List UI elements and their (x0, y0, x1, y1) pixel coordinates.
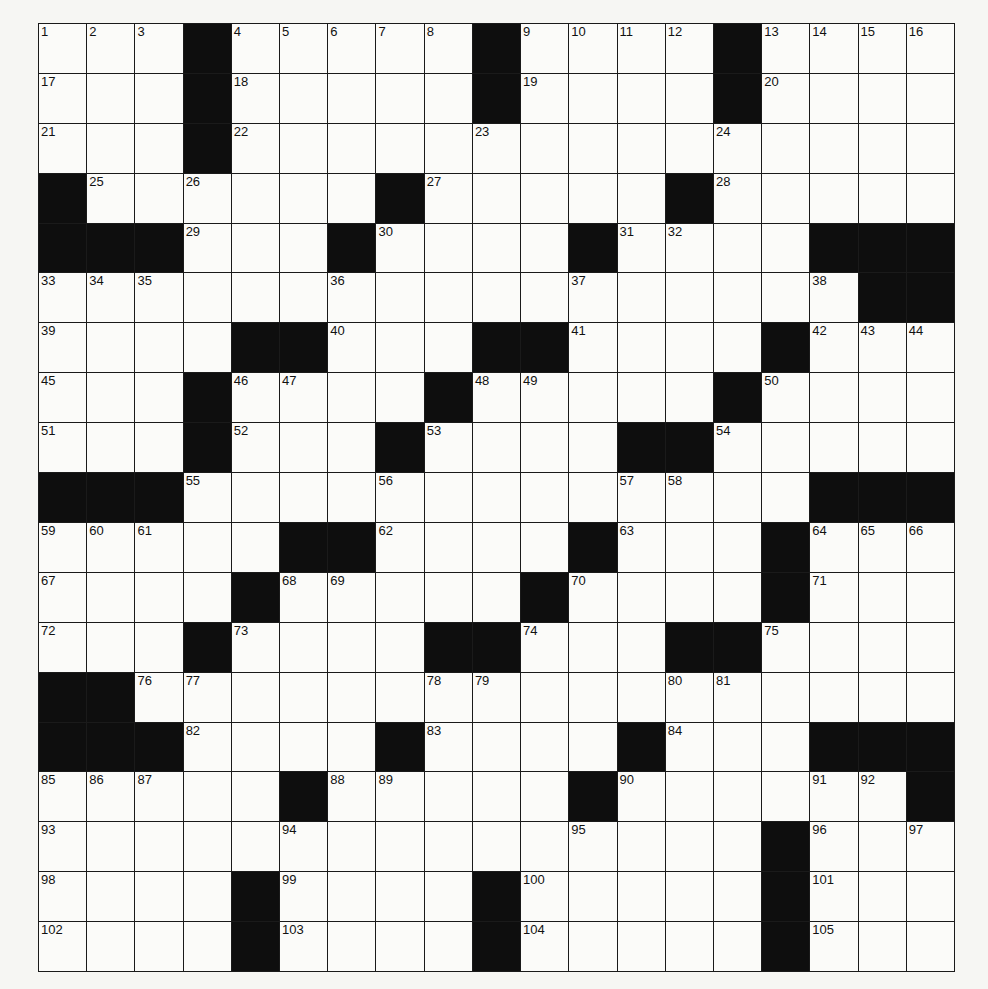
letter-cell[interactable] (135, 174, 182, 223)
letter-cell[interactable] (521, 224, 568, 273)
letter-cell[interactable] (521, 423, 568, 472)
letter-cell[interactable] (376, 124, 423, 173)
letter-cell[interactable] (569, 174, 616, 223)
letter-cell[interactable]: 77 (184, 673, 231, 722)
letter-cell[interactable]: 96 (810, 822, 857, 871)
letter-cell[interactable]: 94 (280, 822, 327, 871)
letter-cell[interactable] (376, 623, 423, 672)
letter-cell[interactable] (328, 723, 375, 772)
letter-cell[interactable] (569, 623, 616, 672)
letter-cell[interactable]: 33 (39, 273, 86, 322)
letter-cell[interactable]: 91 (810, 772, 857, 821)
letter-cell[interactable] (714, 323, 761, 372)
letter-cell[interactable]: 57 (618, 473, 665, 522)
letter-cell[interactable]: 53 (425, 423, 472, 472)
letter-cell[interactable] (859, 573, 906, 622)
letter-cell[interactable] (714, 224, 761, 273)
letter-cell[interactable] (425, 822, 472, 871)
letter-cell[interactable] (762, 772, 809, 821)
letter-cell[interactable] (569, 473, 616, 522)
letter-cell[interactable]: 29 (184, 224, 231, 273)
letter-cell[interactable] (184, 922, 231, 971)
letter-cell[interactable]: 60 (87, 523, 134, 572)
letter-cell[interactable]: 48 (473, 373, 520, 422)
letter-cell[interactable] (569, 74, 616, 123)
letter-cell[interactable]: 47 (280, 373, 327, 422)
letter-cell[interactable] (714, 273, 761, 322)
letter-cell[interactable] (618, 373, 665, 422)
letter-cell[interactable] (425, 124, 472, 173)
letter-cell[interactable]: 58 (666, 473, 713, 522)
letter-cell[interactable] (87, 822, 134, 871)
letter-cell[interactable] (569, 872, 616, 921)
letter-cell[interactable] (618, 872, 665, 921)
letter-cell[interactable] (425, 224, 472, 273)
letter-cell[interactable] (618, 74, 665, 123)
letter-cell[interactable] (666, 922, 713, 971)
letter-cell[interactable]: 27 (425, 174, 472, 223)
letter-cell[interactable]: 92 (859, 772, 906, 821)
letter-cell[interactable] (184, 872, 231, 921)
letter-cell[interactable] (907, 922, 954, 971)
letter-cell[interactable] (473, 224, 520, 273)
letter-cell[interactable] (859, 373, 906, 422)
letter-cell[interactable] (280, 174, 327, 223)
letter-cell[interactable] (425, 872, 472, 921)
letter-cell[interactable] (762, 124, 809, 173)
letter-cell[interactable]: 52 (232, 423, 279, 472)
letter-cell[interactable]: 11 (618, 24, 665, 73)
letter-cell[interactable] (328, 922, 375, 971)
letter-cell[interactable] (618, 323, 665, 372)
letter-cell[interactable] (859, 124, 906, 173)
letter-cell[interactable] (810, 124, 857, 173)
letter-cell[interactable] (859, 623, 906, 672)
letter-cell[interactable] (907, 174, 954, 223)
letter-cell[interactable]: 32 (666, 224, 713, 273)
letter-cell[interactable] (666, 523, 713, 572)
letter-cell[interactable] (425, 273, 472, 322)
letter-cell[interactable] (232, 723, 279, 772)
letter-cell[interactable] (666, 373, 713, 422)
letter-cell[interactable]: 22 (232, 124, 279, 173)
letter-cell[interactable] (473, 174, 520, 223)
letter-cell[interactable]: 20 (762, 74, 809, 123)
letter-cell[interactable] (425, 573, 472, 622)
letter-cell[interactable]: 75 (762, 623, 809, 672)
letter-cell[interactable] (473, 423, 520, 472)
letter-cell[interactable] (135, 573, 182, 622)
letter-cell[interactable]: 66 (907, 523, 954, 572)
letter-cell[interactable]: 4 (232, 24, 279, 73)
letter-cell[interactable] (425, 74, 472, 123)
letter-cell[interactable] (521, 523, 568, 572)
letter-cell[interactable] (87, 573, 134, 622)
letter-cell[interactable] (618, 922, 665, 971)
letter-cell[interactable] (569, 373, 616, 422)
letter-cell[interactable]: 82 (184, 723, 231, 772)
letter-cell[interactable] (714, 922, 761, 971)
letter-cell[interactable] (376, 573, 423, 622)
letter-cell[interactable] (328, 623, 375, 672)
letter-cell[interactable] (569, 124, 616, 173)
letter-cell[interactable] (810, 623, 857, 672)
letter-cell[interactable] (762, 224, 809, 273)
letter-cell[interactable]: 44 (907, 323, 954, 372)
letter-cell[interactable] (810, 373, 857, 422)
letter-cell[interactable]: 14 (810, 24, 857, 73)
letter-cell[interactable]: 41 (569, 323, 616, 372)
letter-cell[interactable] (907, 423, 954, 472)
letter-cell[interactable] (280, 473, 327, 522)
letter-cell[interactable]: 31 (618, 224, 665, 273)
letter-cell[interactable]: 55 (184, 473, 231, 522)
letter-cell[interactable] (232, 224, 279, 273)
letter-cell[interactable] (859, 74, 906, 123)
letter-cell[interactable] (376, 273, 423, 322)
letter-cell[interactable]: 51 (39, 423, 86, 472)
letter-cell[interactable]: 8 (425, 24, 472, 73)
letter-cell[interactable]: 59 (39, 523, 86, 572)
letter-cell[interactable]: 1 (39, 24, 86, 73)
letter-cell[interactable] (328, 124, 375, 173)
letter-cell[interactable]: 104 (521, 922, 568, 971)
letter-cell[interactable] (135, 423, 182, 472)
letter-cell[interactable] (473, 723, 520, 772)
letter-cell[interactable] (762, 273, 809, 322)
